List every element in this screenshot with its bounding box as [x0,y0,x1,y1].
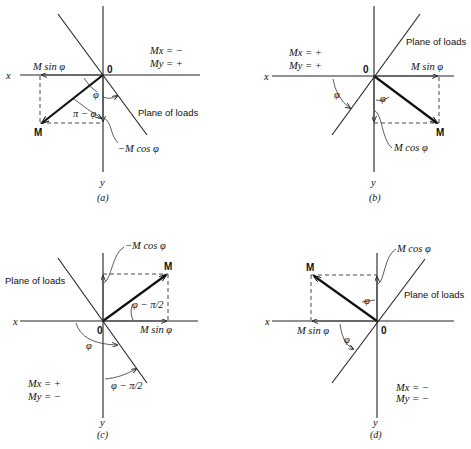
panel-d: x y 0 M Mx = − My = − Plane of loads M s… [264,243,464,441]
angle-phi-minus-half-pi-label: φ − π/2 [111,380,143,391]
vertical-component-label: −M cos φ [118,143,159,154]
point-m-label: M [306,262,314,273]
panel-a: x y 0 M Mx = − My = + Plane of loads M s… [5,6,200,204]
mx-sign: Mx = + [288,47,322,58]
y-axis-label: y [372,417,378,428]
angle-phi-minus-half-pi-label: φ − π/2 [132,299,164,310]
horizontal-component-label: M sin φ [32,61,65,72]
caption-a: (a) [97,192,109,204]
moment-components-figure: x y 0 M Mx = − My = + Plane of loads M s… [0,0,471,449]
angle-phi-label: φ [86,340,92,351]
angle-phi-label: φ [344,334,350,345]
panel-c: x y 0 M Mx = + My = − Plane of loads M s… [5,240,198,441]
caption-c: (c) [97,429,109,441]
plane-of-loads-label: Plane of loads [406,36,466,47]
moment-vector [103,275,166,321]
y-axis-label: y [99,417,105,428]
vertical-component-label: M cos φ [393,142,428,153]
mx-sign: Mx = − [149,45,183,56]
plane-of-loads-line [332,14,420,135]
y-axis-label: y [99,177,105,188]
origin-label: 0 [107,64,113,75]
point-m-label: M [34,127,42,138]
plane-of-loads-label: Plane of loads [404,289,464,300]
origin-label: 0 [97,325,103,336]
origin-label: 0 [363,64,369,75]
vertical-component-label: M cos φ [396,243,431,254]
my-sign: My = + [149,58,183,69]
caption-d: (d) [370,429,382,441]
horizontal-component-label: M sin φ [410,61,443,72]
horizontal-component-label: M sin φ [296,325,329,336]
x-axis-label: x [5,70,11,81]
angle-phi-label: φ [380,93,386,104]
vertical-component-label: −M cos φ [125,240,166,251]
my-sign: My = − [395,393,429,404]
mx-sign: Mx = − [395,382,429,393]
y-axis-label: y [370,177,376,188]
my-sign: My = − [27,391,61,402]
angle-phi-label: φ [364,295,370,306]
x-axis-label: x [12,316,18,327]
point-m-label: M [436,127,444,138]
angle-pi-minus-phi-label: π − φ [73,108,97,119]
x-axis-label: x [264,316,270,327]
plane-of-loads-label: Plane of loads [138,107,198,118]
origin-label: 0 [381,325,387,336]
mx-sign: Mx = + [27,378,61,389]
my-sign: My = + [288,60,322,71]
angle-phi-label: φ [334,89,340,100]
x-axis-label: x [263,71,269,82]
caption-b: (b) [369,192,381,204]
point-m-label: M [164,261,172,272]
plane-of-loads-label: Plane of loads [5,275,65,286]
angle-phi-label: φ [93,89,99,100]
panel-b: x y 0 M Mx = + My = + Plane of loads M s… [263,6,466,204]
horizontal-component-label: M sin φ [139,324,172,335]
